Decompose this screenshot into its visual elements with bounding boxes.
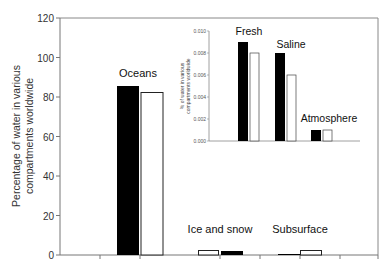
inset-y-tick-label: 0.000 (193, 138, 206, 144)
bar-group-ice-and-snow: Ice and snow (188, 223, 253, 255)
inset-bar-saline-black (275, 53, 285, 141)
main-y-ticks: 0 20 40 60 80 100 120 (37, 13, 60, 261)
inset-y-tick-label: 0.008 (193, 50, 206, 56)
main-y-axis-title-line2: compartments worldwide (23, 78, 35, 194)
category-label-ice-and-snow: Ice and snow (188, 223, 253, 235)
bar-group-oceans: Oceans (117, 67, 163, 255)
inset-bar-saline-white (287, 75, 296, 141)
inset-bar-fresh-black (238, 42, 248, 141)
y-tick-label: 120 (37, 13, 54, 24)
category-label-oceans: Oceans (119, 67, 157, 79)
inset-bar-atmosphere-black (311, 130, 321, 141)
y-tick-label: 60 (43, 132, 55, 143)
inset-category-label-atmosphere: Atmosphere (301, 112, 358, 124)
inset-category-label-saline: Saline (276, 38, 305, 50)
y-tick-label: 20 (43, 211, 55, 222)
inset-y-tick-label: 0.004 (193, 94, 206, 100)
category-label-subsurface: Subsurface (272, 223, 328, 235)
inset-y-axis-title-line2: compartments worldwide (185, 58, 191, 114)
bar-oceans-white (141, 93, 163, 256)
inset-bar-atmosphere-white (323, 130, 332, 141)
y-tick-label: 80 (43, 92, 55, 103)
bar-oceans-black (117, 86, 139, 255)
inset-category-label-fresh: Fresh (236, 25, 263, 37)
inset-y-tick-label: 0.002 (193, 116, 206, 122)
bar-subsurface-black (278, 254, 300, 255)
inset-y-tick-label: 0.010 (193, 28, 206, 34)
main-x-ticks (100, 255, 378, 259)
inset-chart: 0.000 0.002 0.004 0.006 0.008 0.010 % of… (179, 25, 360, 144)
inset-y-tick-label: 0.006 (193, 72, 206, 78)
inset-bar-fresh-white (250, 53, 259, 141)
bar-subsurface-white (301, 251, 322, 256)
y-tick-label: 40 (43, 171, 55, 182)
y-tick-label: 100 (37, 53, 54, 64)
main-y-axis-title-line1: Percentage of water in various (10, 65, 22, 207)
bar-ice-white (199, 251, 219, 256)
bar-ice-black (221, 251, 243, 255)
bar-group-subsurface: Subsurface (272, 223, 328, 255)
water-compartments-chart: 0 20 40 60 80 100 120 Percentage of wate… (0, 0, 390, 271)
y-tick-label: 0 (48, 250, 54, 261)
